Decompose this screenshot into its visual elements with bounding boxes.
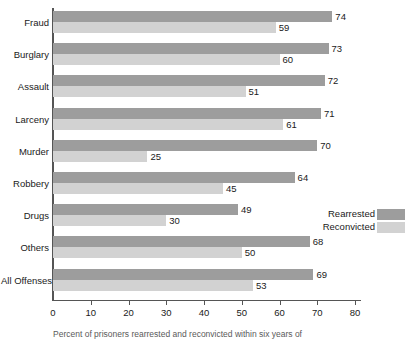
plot-area: 745973607251716170256445493068506953 <box>53 8 355 300</box>
bar-reconvicted <box>53 151 147 162</box>
bar-value-label: 25 <box>150 151 161 162</box>
bar-reconvicted <box>53 22 276 33</box>
chart-legend: Rearrested Reconvicted <box>300 209 405 235</box>
bar-rearrested <box>53 11 332 22</box>
bar-group: 6850 <box>53 236 355 258</box>
x-tick-mark <box>317 300 318 305</box>
x-tick-label: 80 <box>350 307 361 318</box>
category-label: All Offenses <box>1 275 49 286</box>
bar-value-label: 71 <box>324 108 335 119</box>
x-tick-mark <box>242 300 243 305</box>
bar-reconvicted <box>53 119 283 130</box>
category-label: Burglary <box>1 49 49 60</box>
bar-value-label: 60 <box>283 54 294 65</box>
bar-group: 6953 <box>53 269 355 291</box>
x-tick-mark <box>166 300 167 305</box>
bar-reconvicted <box>53 215 166 226</box>
x-tick-label: 20 <box>123 307 134 318</box>
bar-rearrested <box>53 108 321 119</box>
bar-chart: FraudBurglaryAssaultLarcenyMurderRobbery… <box>0 0 410 341</box>
bar-value-label: 64 <box>298 172 309 183</box>
bar-value-label: 74 <box>335 11 346 22</box>
bar-reconvicted <box>53 54 280 65</box>
bar-reconvicted <box>53 247 242 258</box>
legend-swatch-rearrested <box>377 209 405 220</box>
bar-value-label: 69 <box>316 269 327 280</box>
x-tick-label: 70 <box>312 307 323 318</box>
legend-item-rearrested: Rearrested <box>300 209 405 220</box>
bar-rearrested <box>53 140 317 151</box>
bar-value-label: 51 <box>249 86 260 97</box>
bar-reconvicted <box>53 183 223 194</box>
x-tick-mark <box>129 300 130 305</box>
bar-value-label: 45 <box>226 183 237 194</box>
category-label: Assault <box>1 81 49 92</box>
x-tick-mark <box>91 300 92 305</box>
bar-value-label: 50 <box>245 247 256 258</box>
bar-value-label: 68 <box>313 236 324 247</box>
category-label: Larceny <box>1 114 49 125</box>
bar-value-label: 73 <box>332 43 343 54</box>
bar-rearrested <box>53 75 325 86</box>
bar-group: 7161 <box>53 108 355 130</box>
bar-rearrested <box>53 269 313 280</box>
legend-label-reconvicted: Reconvicted <box>323 221 375 233</box>
category-label: Fraud <box>1 17 49 28</box>
category-label: Murder <box>1 146 49 157</box>
bar-group: 7251 <box>53 75 355 97</box>
x-tick-label: 40 <box>199 307 210 318</box>
bar-value-label: 30 <box>169 215 180 226</box>
bar-value-label: 61 <box>286 119 297 130</box>
x-tick-label: 60 <box>274 307 285 318</box>
bar-value-label: 70 <box>320 140 331 151</box>
category-label: Others <box>1 242 49 253</box>
category-label: Drugs <box>1 210 49 221</box>
x-tick-label: 30 <box>161 307 172 318</box>
category-axis-labels: FraudBurglaryAssaultLarcenyMurderRobbery… <box>0 0 49 341</box>
bar-value-label: 53 <box>256 280 267 291</box>
bar-rearrested <box>53 236 310 247</box>
bar-value-label: 49 <box>241 204 252 215</box>
chart-caption: Percent of prisoners rearrested and reco… <box>53 329 403 339</box>
bar-reconvicted <box>53 86 246 97</box>
legend-item-reconvicted: Reconvicted <box>300 222 405 233</box>
bar-value-label: 59 <box>279 22 290 33</box>
x-tick-mark <box>355 300 356 305</box>
bar-value-label: 72 <box>328 75 339 86</box>
x-axis-line <box>52 300 361 301</box>
x-tick-label: 50 <box>236 307 247 318</box>
x-tick-label: 0 <box>50 307 55 318</box>
bar-group: 7360 <box>53 43 355 65</box>
bar-group: 7025 <box>53 140 355 162</box>
category-label: Robbery <box>1 178 49 189</box>
bar-rearrested <box>53 204 238 215</box>
x-tick-mark <box>280 300 281 305</box>
bar-rearrested <box>53 172 295 183</box>
bar-reconvicted <box>53 280 253 291</box>
bar-group: 7459 <box>53 11 355 33</box>
legend-swatch-reconvicted <box>377 222 405 233</box>
bar-group: 6445 <box>53 172 355 194</box>
bar-rearrested <box>53 43 329 54</box>
legend-label-rearrested: Rearrested <box>328 208 375 220</box>
x-tick-label: 10 <box>85 307 96 318</box>
x-tick-mark <box>204 300 205 305</box>
